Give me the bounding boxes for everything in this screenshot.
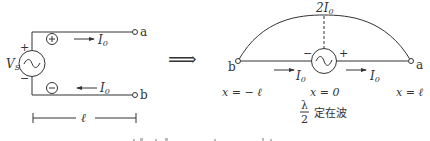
current-left-label: I0: [295, 69, 306, 84]
current-top-label: I0: [97, 33, 108, 48]
fraction-denominator: 2: [301, 113, 308, 126]
terminal-a-icon: [133, 30, 138, 35]
terminal-a-icon: [409, 59, 414, 64]
terminal-b-label: b: [140, 88, 148, 102]
terminal-b-icon: [133, 93, 138, 98]
peak-current-label: 2I0: [315, 1, 333, 16]
source-voltage-label: VS: [6, 57, 21, 72]
source-minus-label: −: [303, 47, 312, 60]
sine-wave-icon: [24, 59, 40, 67]
length-label: ℓ: [81, 111, 86, 125]
transmission-line-circuit: [19, 30, 138, 124]
current-bottom-label: I0: [99, 81, 110, 96]
x-left-label: x = − ℓ: [222, 86, 262, 99]
x-center-label: x = 0: [310, 86, 339, 99]
cropped-caption-strip: [0, 136, 430, 141]
source-plus-label: +: [339, 47, 348, 60]
antenna-terminal-b-label: b: [228, 60, 236, 74]
source-minus-label: −: [20, 72, 29, 85]
standing-wave-label: 定在波: [314, 106, 347, 120]
terminal-a-label: a: [140, 25, 147, 39]
current-right-label: I0: [369, 69, 380, 84]
source-plus-label: +: [20, 41, 29, 54]
fraction-numerator: λ: [301, 99, 308, 112]
terminal-b-icon: [236, 59, 241, 64]
antenna-terminal-a-label: a: [416, 58, 423, 72]
x-right-label: x = ℓ: [396, 86, 423, 99]
antenna-diagram: + − VS I0 I0 a b ℓ ⟹ 2I0 b a − + I0 I0 x…: [0, 0, 430, 141]
implies-arrow-icon: ⟹: [168, 47, 197, 71]
